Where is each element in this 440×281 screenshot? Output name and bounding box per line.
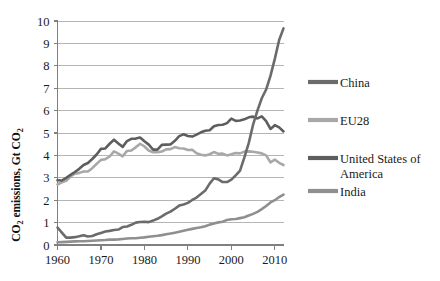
y-tick-label-10: 10 [37, 15, 50, 29]
y-tick-label-1: 1 [43, 216, 49, 230]
co2-emissions-line-chart: 012345678910 196019701980199020002010 CO… [0, 0, 440, 281]
y-tick-label-2: 2 [43, 194, 49, 208]
y-tick-label-4: 4 [43, 149, 50, 163]
legend-label-india: India [340, 185, 366, 199]
y-tick-label-8: 8 [43, 59, 49, 73]
y-tick-label-7: 7 [43, 82, 49, 96]
y-tick-label-5: 5 [43, 127, 49, 141]
x-tick-label-1980: 1980 [132, 253, 157, 267]
y-tick-label-0: 0 [43, 239, 49, 253]
legend-label-china: China [340, 76, 370, 90]
legend-label-eu28: EU28 [340, 114, 369, 128]
x-tick-label-2010: 2010 [262, 253, 287, 267]
x-tick-label-2000: 2000 [219, 253, 244, 267]
x-tick-label-1970: 1970 [88, 253, 113, 267]
y-tick-label-9: 9 [43, 37, 49, 51]
chart-canvas: 012345678910 196019701980199020002010 CO… [0, 0, 440, 281]
legend-label-america: America [340, 167, 383, 181]
x-tick-label-1960: 1960 [45, 253, 70, 267]
y-tick-label-3: 3 [43, 171, 49, 185]
legend-label-united-states-of: United States of [340, 152, 421, 166]
x-tick-label-1990: 1990 [175, 253, 200, 267]
y-tick-label-6: 6 [43, 104, 49, 118]
